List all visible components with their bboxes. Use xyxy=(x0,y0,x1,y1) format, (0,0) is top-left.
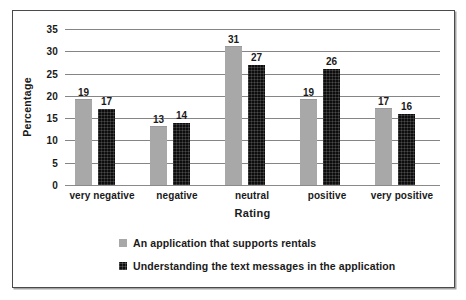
bar[interactable]: 27 xyxy=(248,65,265,185)
bar[interactable]: 19 xyxy=(75,99,92,185)
bar-group: 1314 xyxy=(140,29,215,185)
bar-value-label: 17 xyxy=(101,96,112,107)
x-axis-title: Rating xyxy=(65,207,440,219)
legend-item[interactable]: An application that supports rentals xyxy=(119,237,395,249)
y-axis-tick-label: 15 xyxy=(46,113,58,124)
y-axis-tick-label: 10 xyxy=(46,135,58,146)
bar[interactable]: 16 xyxy=(398,114,415,185)
y-axis-tick-label: 25 xyxy=(46,68,58,79)
y-axis-title: Percentage xyxy=(21,77,33,137)
bar-value-label: 14 xyxy=(176,110,187,121)
bar-group: 1716 xyxy=(365,29,440,185)
chart-legend: An application that supports rentalsUnde… xyxy=(119,237,395,283)
bar-group: 1926 xyxy=(290,29,365,185)
bar[interactable]: 26 xyxy=(323,69,340,185)
bar-value-label: 27 xyxy=(251,52,262,63)
bar-group: 1917 xyxy=(65,29,140,185)
legend-label: Understanding the text messages in the a… xyxy=(133,260,395,272)
bar-value-label: 19 xyxy=(78,87,89,98)
gridline xyxy=(65,185,440,186)
bar[interactable]: 13 xyxy=(150,126,167,185)
bar[interactable]: 31 xyxy=(225,46,242,185)
x-axis-tick-label: very positive xyxy=(371,190,433,201)
bar[interactable]: 19 xyxy=(300,99,317,185)
bar[interactable]: 17 xyxy=(375,108,392,185)
bar[interactable]: 14 xyxy=(173,123,190,185)
legend-label: An application that supports rentals xyxy=(133,237,316,249)
bar-value-label: 19 xyxy=(303,87,314,98)
legend-swatch xyxy=(119,239,127,247)
legend-item[interactable]: Understanding the text messages in the a… xyxy=(119,260,395,272)
x-axis-tick-label: neutral xyxy=(235,190,269,201)
plot-inner: 05101520253035 19171314312719261716 very… xyxy=(65,29,440,185)
x-axis-tick-label: positive xyxy=(308,190,347,201)
x-axis-tick-label: negative xyxy=(156,190,197,201)
bar-value-label: 17 xyxy=(378,96,389,107)
chart-figure: Percentage 05101520253035 19171314312719… xyxy=(12,10,455,288)
y-axis-tick-label: 30 xyxy=(46,46,58,57)
bar-value-label: 31 xyxy=(228,34,239,45)
y-axis-tick-label: 0 xyxy=(52,180,58,191)
y-axis-tick-label: 20 xyxy=(46,90,58,101)
bar-group: 3127 xyxy=(215,29,290,185)
y-axis-tick-label: 5 xyxy=(52,157,58,168)
y-axis-tick-label: 35 xyxy=(46,24,58,35)
plot-area: 05101520253035 19171314312719261716 very… xyxy=(65,29,440,185)
bar-value-label: 13 xyxy=(153,114,164,125)
x-axis-tick-label: very negative xyxy=(69,190,134,201)
bar[interactable]: 17 xyxy=(98,109,115,185)
bar-value-label: 16 xyxy=(401,101,412,112)
legend-swatch xyxy=(119,262,127,270)
bar-value-label: 26 xyxy=(326,56,337,67)
